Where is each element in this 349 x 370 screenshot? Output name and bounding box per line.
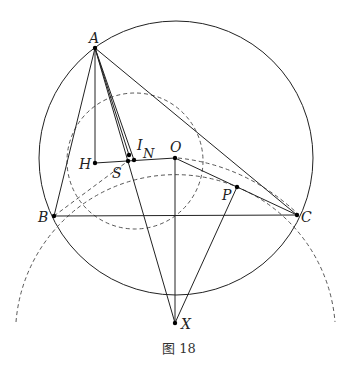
- point-c: [295, 213, 299, 217]
- point-p: [235, 185, 239, 189]
- label-i: I: [136, 137, 143, 153]
- label-x: X: [180, 316, 192, 332]
- label-c: C: [301, 209, 312, 225]
- segment-an: [95, 48, 134, 160]
- point-h: [93, 161, 97, 165]
- label-o: O: [170, 139, 182, 155]
- label-n: N: [142, 146, 155, 161]
- point-a: [93, 46, 97, 50]
- segment-ax: [95, 48, 175, 323]
- label-s: S: [112, 165, 122, 181]
- label-b: B: [37, 209, 48, 225]
- label-p: P: [221, 187, 232, 203]
- figure-caption: 图 18: [162, 341, 196, 356]
- point-x: [173, 321, 177, 325]
- geometry-figure: A B C H S I N O P X 图 18: [0, 0, 349, 370]
- point-n: [132, 158, 136, 162]
- label-a: A: [87, 30, 99, 46]
- label-h: H: [78, 156, 92, 172]
- point-s: [126, 159, 130, 163]
- point-i: [127, 153, 131, 157]
- segment-ac: [95, 48, 297, 215]
- segment-ab: [54, 48, 95, 216]
- point-o: [173, 156, 177, 160]
- point-b: [52, 214, 56, 218]
